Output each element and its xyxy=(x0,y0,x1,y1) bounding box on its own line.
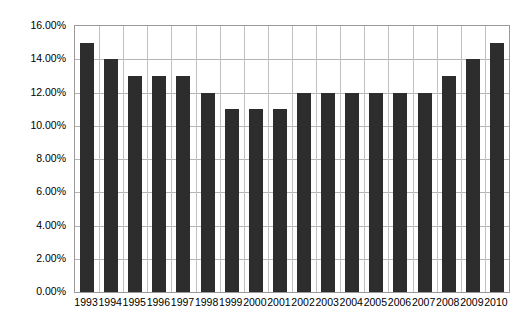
bar-slot xyxy=(461,26,485,292)
x-axis-tick-label: 1999 xyxy=(219,296,242,308)
bar-slot xyxy=(147,26,171,292)
bar xyxy=(466,59,480,292)
x-axis-tick-label: 1996 xyxy=(147,296,170,308)
x-axis-tick-label: 2003 xyxy=(315,296,338,308)
plot-area xyxy=(74,25,510,293)
bar-slot xyxy=(364,26,388,292)
bar-slot xyxy=(99,26,123,292)
y-axis-tick-label: 2.00% xyxy=(36,252,66,264)
x-axis-tick-label: 2005 xyxy=(364,296,387,308)
bar xyxy=(418,93,432,293)
y-axis-tick-label: 14.00% xyxy=(30,52,66,64)
bar xyxy=(176,76,190,292)
bar xyxy=(442,76,456,292)
bar-slot xyxy=(388,26,412,292)
bar-slot xyxy=(485,26,509,292)
bars-layer xyxy=(75,26,509,292)
bar xyxy=(345,93,359,293)
y-axis-tick-label: 8.00% xyxy=(36,152,66,164)
bar xyxy=(80,43,94,292)
x-axis-tick-label: 1997 xyxy=(171,296,194,308)
y-axis-tick-label: 16.00% xyxy=(30,19,66,31)
x-axis-tick-label: 2000 xyxy=(243,296,266,308)
bar xyxy=(273,109,287,292)
x-axis-tick-label: 2008 xyxy=(436,296,459,308)
bar xyxy=(128,76,142,292)
bar-slot xyxy=(316,26,340,292)
bar xyxy=(321,93,335,293)
bar-slot xyxy=(413,26,437,292)
bar xyxy=(490,43,504,292)
x-axis: 1993199419951996199719981999200020012002… xyxy=(74,296,510,316)
bar xyxy=(297,93,311,293)
x-axis-tick-label: 2009 xyxy=(460,296,483,308)
y-axis-tick-label: 10.00% xyxy=(30,119,66,131)
x-axis-tick-label: 2007 xyxy=(412,296,435,308)
bar-slot xyxy=(171,26,195,292)
x-axis-tick-label: 1994 xyxy=(98,296,121,308)
x-axis-tick-label: 1993 xyxy=(74,296,97,308)
x-axis-tick-label: 2004 xyxy=(340,296,363,308)
y-axis-tick-label: 6.00% xyxy=(36,185,66,197)
y-axis-tick-label: 0.00% xyxy=(36,285,66,297)
y-axis: 0.00%2.00%4.00%6.00%8.00%10.00%12.00%14.… xyxy=(0,18,70,294)
y-axis-tick-label: 4.00% xyxy=(36,219,66,231)
x-axis-tick-label: 1998 xyxy=(195,296,218,308)
bar-slot xyxy=(123,26,147,292)
bar-slot xyxy=(196,26,220,292)
bar xyxy=(393,93,407,293)
bar xyxy=(152,76,166,292)
x-axis-tick-label: 2010 xyxy=(484,296,507,308)
bar xyxy=(369,93,383,293)
bar-slot xyxy=(340,26,364,292)
bar-slot xyxy=(292,26,316,292)
bar xyxy=(104,59,118,292)
x-axis-tick-label: 2006 xyxy=(388,296,411,308)
x-axis-tick-label: 1995 xyxy=(123,296,146,308)
bar-slot xyxy=(437,26,461,292)
x-axis-tick-label: 2002 xyxy=(291,296,314,308)
x-axis-tick-label: 2001 xyxy=(267,296,290,308)
bar-slot xyxy=(75,26,99,292)
bar-chart: 0.00%2.00%4.00%6.00%8.00%10.00%12.00%14.… xyxy=(0,0,524,330)
bar xyxy=(201,93,215,293)
bar-slot xyxy=(220,26,244,292)
bar-slot xyxy=(244,26,268,292)
y-axis-tick-label: 12.00% xyxy=(30,86,66,98)
bar xyxy=(249,109,263,292)
bar-slot xyxy=(268,26,292,292)
bar xyxy=(225,109,239,292)
